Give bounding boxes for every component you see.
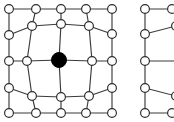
mesh-node-highlighted <box>52 53 67 68</box>
mesh-edge <box>89 61 92 96</box>
mesh-figure <box>0 0 174 122</box>
mesh-edge <box>27 26 32 61</box>
mesh-node <box>5 5 14 14</box>
mesh-node <box>57 109 66 118</box>
mesh-edge <box>27 61 32 96</box>
mesh-node <box>32 5 41 14</box>
mesh-node <box>108 5 117 14</box>
mesh-node <box>5 109 14 118</box>
mesh-node <box>85 92 94 101</box>
mesh-node <box>108 57 117 66</box>
mesh-node <box>141 84 150 93</box>
mesh-node <box>88 57 97 66</box>
mesh-node <box>5 31 14 40</box>
mesh-node <box>57 93 66 102</box>
mesh-node <box>5 84 14 93</box>
mesh-node <box>172 22 174 31</box>
mesh-node <box>141 109 150 118</box>
mesh-node <box>57 20 66 29</box>
mesh-node <box>141 57 150 66</box>
mesh-node <box>141 5 150 14</box>
mesh-edge <box>89 26 92 61</box>
mesh-node <box>172 92 174 101</box>
mesh-node <box>168 109 174 118</box>
mesh-node <box>108 84 117 93</box>
mesh-node <box>5 57 14 66</box>
mesh-node <box>32 109 41 118</box>
mesh-node <box>23 57 32 66</box>
mesh-node <box>168 5 174 14</box>
mesh-node <box>57 5 66 14</box>
mesh-node <box>141 30 150 39</box>
mesh-node <box>108 30 117 39</box>
mesh-canvas <box>0 0 174 122</box>
mesh-node <box>108 109 117 118</box>
mesh-node <box>82 5 91 14</box>
mesh-node <box>28 92 37 101</box>
mesh-node <box>82 109 91 118</box>
mesh-node <box>28 22 37 31</box>
mesh-node <box>85 22 94 31</box>
mesh-node-layer <box>5 5 174 118</box>
